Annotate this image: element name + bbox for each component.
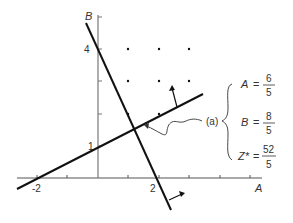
y-tick-label-4: 4 <box>84 44 90 55</box>
pointer-to-optimum <box>144 119 202 135</box>
x-axis-label: A <box>254 182 262 194</box>
direction-arrow-shallow <box>169 85 177 107</box>
x-tick-label-neg2: -2 <box>32 183 41 194</box>
svg-text:=: = <box>253 150 259 162</box>
svg-text:52: 52 <box>263 144 275 155</box>
lp-diagram: B A -2 2 1 4 (a) A = 6 5 <box>0 0 293 223</box>
svg-text:5: 5 <box>266 87 272 98</box>
x-tick-label-2: 2 <box>150 183 156 194</box>
svg-text:=: = <box>253 78 259 90</box>
svg-text:5: 5 <box>266 159 272 170</box>
solution-z: Z* = 52 5 <box>237 144 276 170</box>
solution-b: B = 8 5 <box>241 111 275 136</box>
svg-text:8: 8 <box>266 111 272 122</box>
svg-text:B: B <box>241 116 248 128</box>
solution-a: A = 6 5 <box>240 73 275 98</box>
optimum-point-label: (a) <box>206 116 218 127</box>
axes <box>17 15 262 178</box>
y-axis-label: B <box>85 10 92 22</box>
constraint-line-shallow <box>17 94 203 189</box>
solution-brace <box>222 84 232 160</box>
svg-text:6: 6 <box>266 73 272 84</box>
svg-text:5: 5 <box>266 125 272 136</box>
svg-text:Z*: Z* <box>237 150 250 162</box>
direction-arrow-steep <box>169 191 185 200</box>
svg-text:A: A <box>240 78 248 90</box>
svg-text:=: = <box>253 116 259 128</box>
